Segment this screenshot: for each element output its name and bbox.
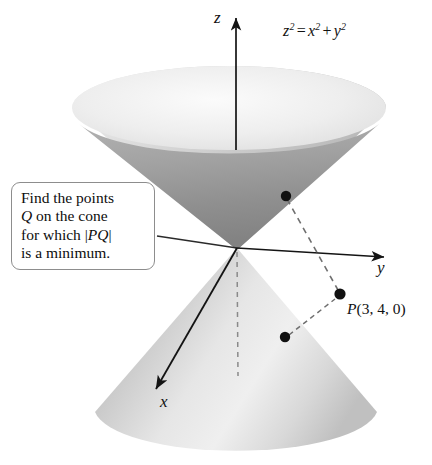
point-p [334, 288, 345, 299]
callout-line-3: for which |PQ| [21, 226, 146, 244]
axis-label-y: y [377, 258, 385, 278]
callout-line-2: Q on the cone [21, 207, 146, 225]
callout-q-symbol: Q [21, 207, 32, 224]
equation-y-exponent: 2 [341, 21, 346, 32]
segment-upperQ-to-P [287, 199, 338, 290]
callout-line-4: is a minimum. [21, 244, 146, 262]
callout-bar-close: | [108, 226, 111, 243]
point-label-p-coords: (3, 4, 0) [356, 300, 405, 317]
callout-line-1: Find the points [21, 189, 146, 207]
axis-label-x: x [160, 392, 168, 412]
cone-figure: z y x z2=x2+y2 P(3, 4, 0) Find the point… [0, 0, 432, 465]
cone-equation-label: z2=x2+y2 [283, 21, 346, 40]
callout-line-3-prefix: for which [21, 226, 85, 243]
axis-label-z: z [214, 8, 221, 28]
pq-dashed-segments [287, 199, 338, 335]
callout-line-2-rest: on the cone [32, 207, 107, 224]
axis-y [237, 248, 384, 257]
upper-cone-rim [72, 66, 386, 150]
equation-y: y [334, 22, 341, 39]
lower-cone [95, 248, 377, 451]
callout-box: Find the points Q on the cone for which … [11, 182, 155, 270]
equation-z-exponent: 2 [289, 21, 294, 32]
lower-cone-lateral [95, 248, 377, 451]
equation-equals: = [295, 22, 308, 39]
callout-pq-symbol: PQ [88, 226, 109, 243]
point-q-lower [280, 332, 290, 342]
point-q-upper [281, 191, 291, 201]
point-label-p: P(3, 4, 0) [347, 300, 406, 318]
equation-plus: + [320, 22, 333, 39]
